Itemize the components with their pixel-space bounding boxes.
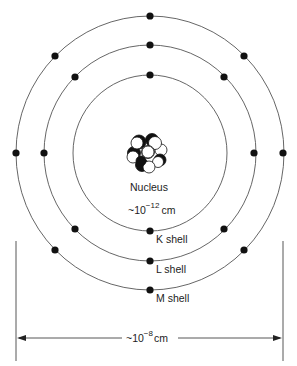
nucleus-size-label: ~10−12cm [128,201,176,216]
arrowhead-left-icon [17,335,26,341]
electron-l-bottom [146,257,153,264]
electron-l-left [40,149,47,156]
arrowhead-right-icon [273,335,282,341]
nucleus-label: Nucleus [130,181,168,193]
electron-l-upper-left [71,73,78,80]
electron-m-bottom [146,286,153,293]
electron-l-lower-right [220,225,227,232]
atom-diagram: Nucleus ~10−12cm K shell L shell M shell… [0,0,297,366]
electron-m-upper-left [51,52,58,59]
nucleus-icon [127,134,167,174]
electron-m-upper-right [240,52,247,59]
atom-size-label: ~10−8cm [126,329,168,344]
electron-m-right [279,149,286,156]
electron-m-left [12,149,19,156]
electron-l-right [250,149,257,156]
electron-m-top [146,12,153,19]
electron-l-upper-right [220,73,227,80]
electron-l-lower-left [71,225,78,232]
electron-m-lower-left [51,246,58,253]
m-shell-label: M shell [156,292,189,304]
electron-k-top [146,71,153,78]
electron-k-bottom [146,227,153,234]
electron-m-lower-right [240,246,247,253]
electron-l-top [146,41,153,48]
k-shell-label: K shell [156,233,188,245]
l-shell-label: L shell [156,263,186,275]
